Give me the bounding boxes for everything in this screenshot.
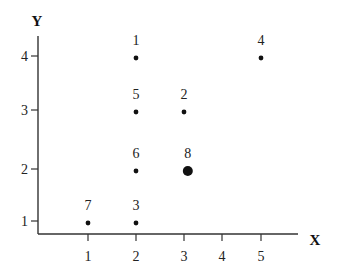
x-tick-label: 1 bbox=[85, 249, 92, 264]
point-marker bbox=[134, 110, 139, 115]
x-tick-label: 3 bbox=[181, 249, 188, 264]
x-axis-ticks: 12345 bbox=[85, 234, 265, 264]
point-label: 6 bbox=[133, 146, 140, 161]
point-marker bbox=[86, 221, 91, 226]
axes: Y X bbox=[32, 13, 321, 248]
point-marker bbox=[259, 56, 264, 61]
data-points: 12345678 bbox=[85, 33, 265, 225]
y-axis-title: Y bbox=[32, 13, 43, 29]
point-label: 7 bbox=[85, 198, 92, 213]
point-label: 4 bbox=[258, 33, 265, 48]
data-point: 1 bbox=[133, 33, 140, 60]
x-axis-title: X bbox=[310, 232, 321, 248]
data-point: 6 bbox=[133, 146, 140, 173]
y-tick-label: 3 bbox=[21, 103, 28, 118]
point-marker bbox=[183, 166, 193, 176]
point-label: 2 bbox=[181, 87, 188, 102]
point-label: 5 bbox=[133, 87, 140, 102]
point-marker bbox=[134, 169, 139, 174]
data-point: 7 bbox=[85, 198, 92, 225]
y-tick-label: 1 bbox=[21, 214, 28, 229]
point-label: 3 bbox=[133, 198, 140, 213]
x-tick-label: 2 bbox=[133, 249, 140, 264]
data-point: 3 bbox=[133, 198, 140, 225]
point-marker bbox=[134, 221, 139, 226]
x-tick-label: 4 bbox=[219, 249, 226, 264]
y-tick-label: 4 bbox=[21, 49, 28, 64]
y-axis-ticks: 1234 bbox=[21, 49, 38, 229]
point-label: 1 bbox=[133, 33, 140, 48]
x-tick-label: 5 bbox=[258, 249, 265, 264]
data-point: 4 bbox=[258, 33, 265, 60]
data-point: 5 bbox=[133, 87, 140, 114]
point-marker bbox=[182, 110, 187, 115]
data-point: 8 bbox=[183, 146, 193, 176]
data-point: 2 bbox=[181, 87, 188, 114]
scatter-chart: Y X 12345 1234 12345678 bbox=[0, 0, 337, 279]
point-marker bbox=[134, 56, 139, 61]
y-tick-label: 2 bbox=[21, 162, 28, 177]
point-label: 8 bbox=[184, 146, 191, 161]
